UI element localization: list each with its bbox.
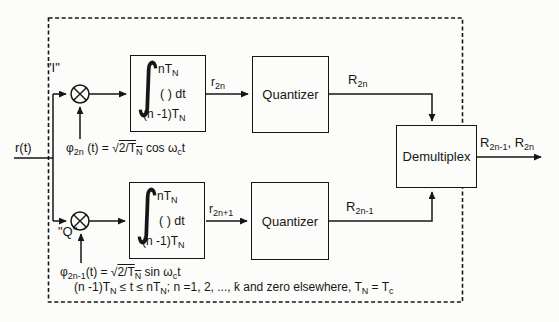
i-quantizer-output-label: R2n [348, 73, 367, 87]
i-quantizer-to-demux-arrow [329, 94, 432, 121]
i-mixer-icon [71, 85, 89, 103]
block-diagram: ∫ nTN ( ) dt (n -1)TN Quantizer ∫ nTN ( … [0, 0, 559, 322]
integral-operand: ( ) dt [159, 214, 185, 228]
q-quantizer-block: Quantizer [251, 182, 329, 260]
q-integrator-block: ∫ nTN ( ) dt (n -1)TN [129, 182, 205, 259]
integral-lower-limit: (n -1)TN [143, 107, 186, 121]
integral-operand: ( ) dt [160, 87, 186, 101]
integral-lower-limit: (n -1)TN [142, 234, 185, 248]
integral-upper-limit: nTN [157, 189, 178, 203]
demultiplex-label: Demultiplex [403, 149, 471, 164]
q-quantizer-to-demux-arrow [329, 192, 432, 221]
i-quantizer-label: Quantizer [262, 87, 318, 102]
q-quantizer-output-label: R2n-1 [346, 200, 373, 214]
i-integrator-output-label: r2n [211, 76, 225, 89]
output-signal-label: R2n-1, R2n [480, 136, 534, 150]
q-branch-label: "Q" [58, 225, 77, 239]
input-signal-label: r(t) [15, 141, 32, 155]
i-integrator-block: ∫ nTN ( ) dt (n -1)TN [130, 55, 206, 132]
integral-upper-limit: nTN [158, 62, 179, 76]
interval-condition-text: (n -1)TN ≤ t ≤ nTN; n =1, 2, ..., k̇ and… [74, 281, 394, 294]
i-carrier-equation: φ2n (t) = √2/TN cos ωct [66, 142, 185, 155]
q-carrier-equation: φ2n-1(t) = √2/TN sin ωct [60, 266, 180, 279]
i-quantizer-block: Quantizer [252, 56, 329, 133]
demultiplex-block: Demultiplex [396, 125, 477, 188]
i-branch-label: "I" [47, 61, 60, 75]
q-quantizer-label: Quantizer [262, 214, 318, 229]
q-integrator-output-label: r2n+1 [209, 203, 233, 216]
